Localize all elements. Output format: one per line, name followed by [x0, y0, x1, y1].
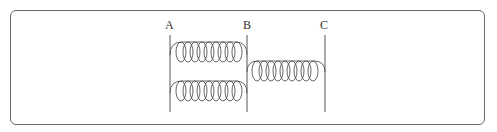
node-label-a: A: [165, 18, 174, 32]
node-label-c: C: [320, 18, 328, 32]
coil-bc: [247, 61, 325, 81]
circuit-diagram: A B C: [0, 0, 497, 132]
coil-upper-ab: [170, 42, 247, 62]
node-label-b: B: [243, 18, 251, 32]
coil-lower-ab: [170, 81, 247, 101]
